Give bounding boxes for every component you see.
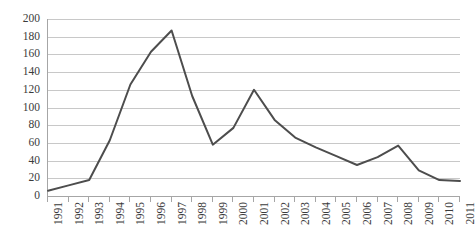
y-tick-label: 200 bbox=[23, 13, 40, 25]
series-line-group bbox=[48, 19, 460, 196]
x-tick-label: 1997 bbox=[171, 191, 183, 214]
y-tick-label: 100 bbox=[23, 102, 40, 114]
x-tick-label: 2003 bbox=[294, 191, 306, 214]
x-tick-label: 2002 bbox=[274, 191, 286, 214]
x-tick-label: 2007 bbox=[377, 191, 389, 214]
y-tick-label: 140 bbox=[23, 66, 40, 78]
x-tick-label: 2005 bbox=[335, 191, 347, 214]
x-tick-label: 2008 bbox=[397, 191, 409, 214]
x-tick-label: 1995 bbox=[129, 191, 141, 214]
x-tick-label: 1998 bbox=[191, 191, 203, 214]
x-tick-label: 2009 bbox=[418, 191, 430, 214]
x-tick-label: 2004 bbox=[315, 191, 327, 214]
y-tick-label: 180 bbox=[23, 31, 40, 43]
x-tick-label: 1999 bbox=[212, 191, 224, 214]
x-tick-label: 1993 bbox=[88, 191, 100, 214]
x-tick-label: 2000 bbox=[232, 191, 244, 214]
y-tick-label: 60 bbox=[29, 137, 41, 149]
y-axis: 020406080100120140160180200 bbox=[0, 0, 44, 245]
x-tick-label: 2001 bbox=[253, 191, 265, 214]
y-tick-label: 160 bbox=[23, 49, 40, 61]
x-tick-label: 2011 bbox=[459, 191, 471, 214]
x-tick-label: 1996 bbox=[150, 191, 162, 214]
y-tick-label: 20 bbox=[29, 173, 41, 185]
x-tick-label: 1992 bbox=[68, 191, 80, 214]
x-axis: 1991199219931994199519961997199819992000… bbox=[47, 202, 459, 245]
x-tick-label: 1994 bbox=[109, 191, 121, 214]
x-tick-label: 1991 bbox=[47, 191, 59, 214]
y-tick-label: 40 bbox=[29, 155, 41, 167]
x-tick-label: 2010 bbox=[438, 191, 450, 214]
series-line-series-1 bbox=[48, 31, 460, 191]
plot-area bbox=[47, 19, 460, 196]
y-tick-label: 120 bbox=[23, 84, 40, 96]
x-tick-label: 2006 bbox=[356, 191, 368, 214]
y-tick-label: 80 bbox=[29, 119, 41, 131]
y-tick-label: 0 bbox=[34, 190, 40, 202]
